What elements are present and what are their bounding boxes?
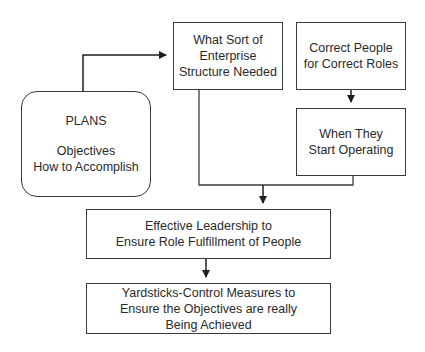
structure-line-2: Enterprise <box>200 48 257 64</box>
people-line-2: for Correct Roles <box>304 56 398 72</box>
leadership-line-1: Effective Leadership to <box>145 218 272 234</box>
node-yardsticks: Yardsticks-Control Measures to Ensure th… <box>86 283 331 334</box>
flowchart-canvas: PLANS Objectives How to Accomplish What … <box>0 0 425 352</box>
structure-line-1: What Sort of <box>193 32 262 48</box>
node-effective-leadership: Effective Leadership to Ensure Role Fulf… <box>86 209 331 259</box>
node-start-operating: When They Start Operating <box>296 108 406 176</box>
yardsticks-line-3: Being Achieved <box>165 317 251 333</box>
edge-plans-to-structure <box>83 55 166 91</box>
plans-line-1: Objectives <box>57 143 115 159</box>
yardsticks-line-2: Ensure the Objectives are really <box>120 301 297 317</box>
operating-line-1: When They <box>319 126 383 142</box>
plans-title: PLANS <box>66 113 107 129</box>
operating-line-2: Start Operating <box>309 142 394 158</box>
yardsticks-line-1: Yardsticks-Control Measures to <box>122 285 295 301</box>
node-structure: What Sort of Enterprise Structure Needed <box>173 22 283 90</box>
structure-line-3: Structure Needed <box>179 64 277 80</box>
node-correct-people: Correct People for Correct Roles <box>296 22 406 90</box>
people-line-1: Correct People <box>309 40 392 56</box>
node-plans: PLANS Objectives How to Accomplish <box>21 91 151 197</box>
plans-line-2: How to Accomplish <box>33 159 139 175</box>
leadership-line-2: Ensure Role Fulfillment of People <box>116 234 302 250</box>
